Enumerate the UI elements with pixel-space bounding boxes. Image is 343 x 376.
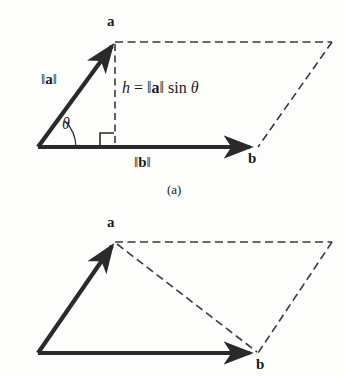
panel-b-dashed-diagonal	[117, 244, 257, 352]
panel-a-label-height-expression: h = ‖a‖ sin θ	[122, 80, 199, 96]
panel-a-label-norm-a: ‖a‖	[41, 72, 57, 87]
norm-b-bar-right: ‖	[147, 154, 151, 170]
panel-b-label-vector-a: a	[107, 215, 115, 230]
norm-a-bar-right: ‖	[53, 71, 57, 87]
height-expr-sin: sin	[164, 79, 191, 96]
panel-b-label-vector-b: b	[256, 357, 264, 372]
norm-b-symbol: b	[138, 154, 146, 170]
norm-a-symbol: a	[45, 71, 53, 87]
height-expr-a-symbol: a	[152, 79, 160, 96]
panel-a-caption: (a)	[167, 183, 181, 196]
panel-b-dashed-right-edge	[258, 242, 332, 353]
panel-a-label-vector-a: a	[107, 14, 115, 29]
panel-a-label-angle-theta: θ	[62, 116, 70, 132]
figure-container: a b ‖a‖ ‖b‖ h = ‖a‖ sin θ θ (a) a b	[0, 0, 343, 376]
panel-a-dashed-right-edge	[258, 42, 332, 147]
panel-a-label-vector-b: b	[248, 151, 256, 166]
panel-a-label-norm-b: ‖b‖	[134, 155, 151, 170]
height-expr-equals: =	[130, 79, 147, 96]
height-expr-h: h	[122, 79, 130, 96]
height-expr-theta: θ	[191, 79, 199, 96]
panel-b-graphics	[38, 242, 332, 353]
panel-a-vector-a-arrow	[38, 46, 112, 147]
panel-b-vector-a-arrow	[38, 246, 112, 353]
